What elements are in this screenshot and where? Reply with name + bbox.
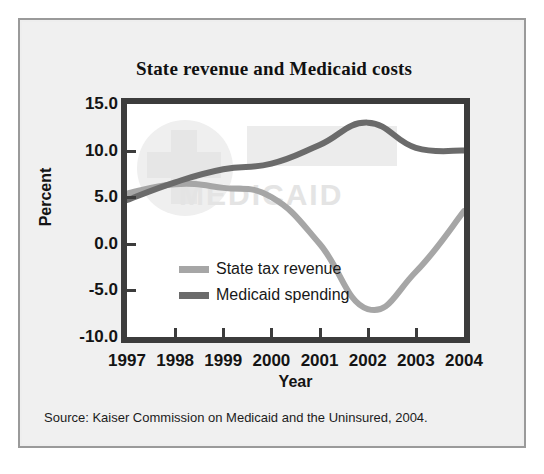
legend-label-state-tax-revenue: State tax revenue — [216, 260, 341, 278]
x-tick-label: 1997 — [100, 351, 154, 371]
x-tick-label: 2003 — [389, 351, 443, 371]
y-tick-label: 0.0 — [56, 234, 118, 254]
x-tick-label: 2001 — [293, 351, 347, 371]
x-tick-mark — [270, 328, 273, 337]
x-tick-mark — [319, 328, 322, 337]
x-tick-label: 2004 — [437, 351, 491, 371]
x-tick-label: 2002 — [341, 351, 395, 371]
series-line-medicaid-spending — [127, 123, 464, 200]
chart-legend: State tax revenue Medicaid spending — [179, 256, 349, 308]
x-tick-mark — [222, 328, 225, 337]
figure-page: State revenue and Medicaid costs 15.010.… — [0, 0, 544, 474]
y-tick-label: -5.0 — [56, 280, 118, 300]
y-axis-labels: 15.010.05.00.0-5.0-10.0 — [48, 98, 118, 343]
x-tick-mark — [415, 328, 418, 337]
x-tick-mark — [174, 328, 177, 337]
legend-item-medicaid-spending: Medicaid spending — [179, 282, 349, 308]
x-tick-label: 1999 — [196, 351, 250, 371]
plot-area: MEDICAID State tax revenue Medicaid spen… — [121, 98, 470, 343]
x-axis-title: Year — [121, 373, 470, 391]
y-tick-mark — [127, 243, 136, 246]
legend-label-medicaid-spending: Medicaid spending — [216, 286, 349, 304]
legend-item-state-tax-revenue: State tax revenue — [179, 256, 349, 282]
y-tick-mark — [127, 196, 136, 199]
legend-swatch-medicaid-spending — [179, 292, 209, 299]
chart-title: State revenue and Medicaid costs — [20, 58, 528, 80]
y-tick-label: 10.0 — [56, 141, 118, 161]
y-tick-label: 15.0 — [56, 94, 118, 114]
y-tick-mark — [127, 289, 136, 292]
plot-inner: MEDICAID State tax revenue Medicaid spen… — [127, 104, 464, 337]
x-tick-label: 1998 — [148, 351, 202, 371]
y-tick-label: 5.0 — [56, 187, 118, 207]
x-axis-labels: 19971998199920002001200220032004 — [121, 347, 470, 373]
source-note: Source: Kaiser Commission on Medicaid an… — [44, 410, 428, 425]
figure-panel: State revenue and Medicaid costs 15.010.… — [18, 18, 526, 448]
legend-swatch-state-tax-revenue — [179, 266, 209, 273]
y-tick-label: -10.0 — [56, 327, 118, 347]
x-tick-mark — [367, 328, 370, 337]
y-axis-title: Percent — [37, 145, 55, 249]
x-tick-label: 2000 — [244, 351, 298, 371]
y-tick-mark — [127, 150, 136, 153]
